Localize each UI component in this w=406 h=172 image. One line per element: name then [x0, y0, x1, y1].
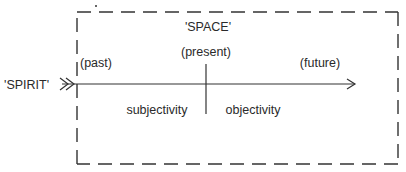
spirit-label: 'SPIRIT'	[4, 78, 49, 92]
time-axis-arrow	[62, 79, 355, 89]
stray-dot	[95, 5, 97, 7]
space-label: 'SPACE'	[185, 20, 231, 34]
subjectivity-label: subjectivity	[126, 103, 188, 117]
objectivity-label: objectivity	[226, 103, 282, 117]
space-box	[77, 12, 398, 164]
present-label: (present)	[181, 45, 231, 59]
past-label: (past)	[80, 56, 112, 70]
space-spirit-diagram: 'SPACE' 'SPIRIT' (past) (present) (futur…	[0, 0, 406, 172]
future-label: (future)	[300, 56, 340, 70]
